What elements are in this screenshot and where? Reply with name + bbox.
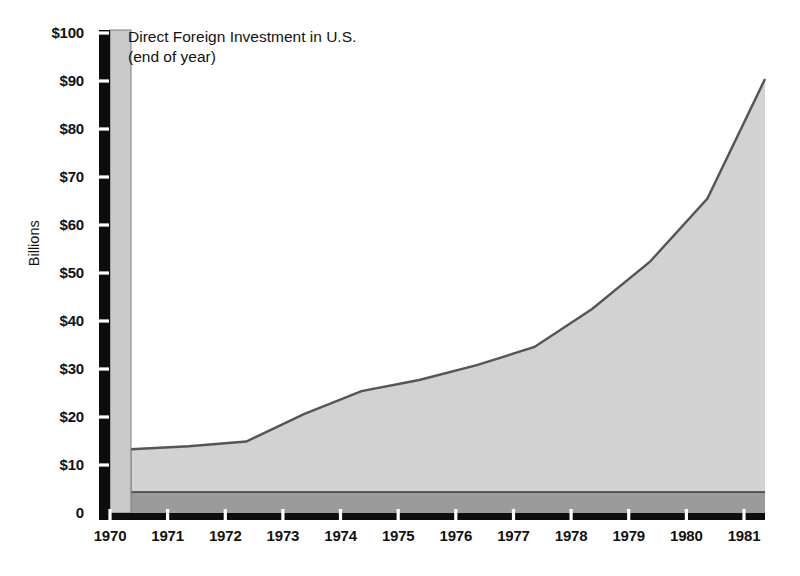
- x-axis-tick-notch: [281, 509, 284, 524]
- x-axis-tick-notch: [454, 509, 457, 524]
- y-axis-tick-notch: [93, 127, 109, 130]
- x-axis-tick-notch: [512, 509, 515, 524]
- x-axis-tick-notch: [224, 509, 227, 524]
- chart-title-line-2: (end of year): [128, 47, 356, 67]
- x-axis-tick-notch: [570, 509, 573, 524]
- y-axis-tick-notch: [93, 415, 109, 418]
- x-axis-tick-notch: [742, 509, 745, 524]
- y-axis-bar: [99, 30, 110, 520]
- x-axis-tick-label: 1971: [151, 528, 184, 543]
- x-axis-tick-label: 1973: [267, 528, 300, 543]
- y-axis-tick-label: $30: [60, 361, 84, 376]
- x-axis-tick-notch: [685, 509, 688, 524]
- y-axis-tick-notch: [93, 463, 109, 466]
- y-axis-tick-label: $60: [60, 217, 84, 232]
- chart-container: $100$90$80$70$60$50$40$30$20$100 1970197…: [0, 0, 800, 576]
- y-axis-tick-label: $20: [60, 409, 84, 424]
- y-axis-tick-label: $80: [60, 121, 84, 136]
- y-axis-tick-label: $40: [60, 313, 84, 328]
- x-axis-tick-notch: [397, 509, 400, 524]
- floor-slab: [110, 492, 765, 513]
- x-axis-tick-label: 1975: [382, 528, 415, 543]
- y-axis-tick-notch: [93, 79, 109, 82]
- y-axis-tick-notch: [93, 31, 109, 34]
- x-axis-tick-notch: [627, 509, 630, 524]
- x-axis-tick-label: 1972: [209, 528, 242, 543]
- y-axis-tick-notch: [93, 175, 109, 178]
- y-axis-tick-notch: [93, 367, 109, 370]
- y-axis-tick-notch: [93, 319, 109, 322]
- chart-title-line-1: Direct Foreign Investment in U.S.: [128, 28, 356, 45]
- chart-title: Direct Foreign Investment in U.S. (end o…: [128, 27, 356, 67]
- y-axis-side-panel: [110, 30, 131, 513]
- x-axis-tick-label: 1974: [324, 528, 357, 543]
- x-axis-tick-label: 1977: [497, 528, 530, 543]
- y-axis-tick-notch: [93, 271, 109, 274]
- y-axis-title: Billions: [27, 198, 42, 288]
- y-axis-tick-label: $10: [60, 457, 84, 472]
- x-axis-tick-label: 1970: [94, 528, 127, 543]
- area-fill: [131, 79, 765, 492]
- x-axis-tick-label: 1978: [555, 528, 588, 543]
- y-axis-tick-label: 0: [76, 505, 84, 520]
- x-axis-tick-label: 1980: [670, 528, 703, 543]
- x-axis-bar: [99, 513, 765, 520]
- y-axis-tick-label: $50: [60, 265, 84, 280]
- area-chart-graphic: [0, 0, 800, 576]
- y-axis-tick-label: $100: [51, 25, 84, 40]
- x-axis-tick-notch: [166, 509, 169, 524]
- x-axis-tick-label: 1979: [612, 528, 645, 543]
- y-axis-tick-notch: [93, 223, 109, 226]
- x-axis-tick-notch: [339, 509, 342, 524]
- y-axis-tick-label: $70: [60, 169, 84, 184]
- x-axis-tick-label: 1976: [440, 528, 473, 543]
- x-axis-tick-notch: [108, 509, 111, 524]
- y-axis-tick-label: $90: [60, 73, 84, 88]
- x-axis-tick-label: 1981: [728, 528, 761, 543]
